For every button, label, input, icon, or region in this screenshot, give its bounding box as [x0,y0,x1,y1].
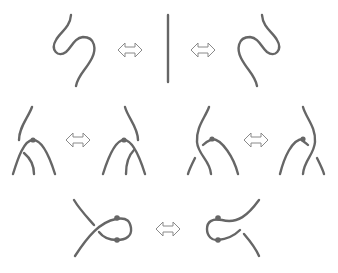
cusp-node [300,136,305,141]
equivalence-arrow-icon [191,43,215,57]
row-loop-move [74,200,259,256]
row-cusp-move-pair-1 [13,107,145,174]
row-cusp-move-pair-2 [188,107,324,174]
cusp-with-crossing-strand-left [188,107,238,174]
cusp-node [114,215,120,221]
cusp-with-crossing-strand-right [280,107,324,174]
cusp-node [30,137,35,142]
cusp-node [121,137,126,142]
equivalence-arrow-icon [244,133,268,147]
left-zigzag-strand [54,15,94,86]
right-zigzag-strand [239,15,279,86]
row-zigzag-move [54,15,279,86]
reidemeister-moves-diagram [0,0,338,273]
cusp-node [215,215,221,221]
cusp-node [215,237,221,243]
equivalence-arrow-icon [156,222,180,236]
cusp-node [209,136,214,141]
cusp-node [114,237,120,243]
loop-right [74,200,131,256]
equivalence-arrow-icon [66,133,90,147]
equivalence-arrow-icon [118,43,142,57]
cusp-with-right-strand [103,107,145,174]
cusp-with-left-strand [13,107,55,174]
loop-left [207,200,259,256]
